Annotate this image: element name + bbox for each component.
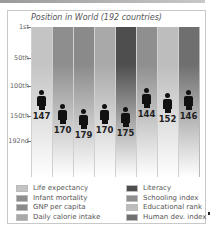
legend-swatch [16, 214, 28, 221]
person-icon [57, 104, 69, 124]
legend-swatch [126, 185, 138, 192]
person-icon [162, 93, 174, 113]
legend-swatch [126, 204, 138, 211]
person-icon [120, 107, 132, 127]
top-bar [0, 0, 205, 3]
legend-label: Life expectancy [33, 184, 88, 193]
rank-value: 179 [73, 130, 95, 140]
person-icon [78, 109, 90, 129]
edge-marker [208, 212, 210, 215]
legend-swatch [16, 185, 28, 192]
rank-value: 147 [31, 111, 53, 121]
legend-label: Schooling index [143, 194, 198, 203]
plot-area [31, 27, 199, 177]
column-gnp-per-capita [73, 27, 95, 177]
rank-value: 152 [157, 114, 179, 124]
legend-label: Infant mortality [33, 194, 87, 203]
legend-label: Human dev. index [143, 213, 206, 222]
rank-value: 146 [178, 111, 200, 121]
column-daily-calorie-intake [94, 27, 116, 177]
legend-swatch [126, 214, 138, 221]
person-icon [141, 88, 153, 108]
legend-label: Educational rank [143, 203, 202, 212]
person-icon [183, 90, 195, 110]
legend-swatch [16, 204, 28, 211]
rank-value: 170 [94, 125, 116, 135]
legend-swatch [16, 195, 28, 202]
rank-value: 175 [115, 128, 137, 138]
column-infant-mortality [52, 27, 74, 177]
legend-label: GNP per capita [33, 203, 86, 212]
column-literacy [115, 27, 137, 177]
person-icon [36, 90, 48, 110]
legend-label: Daily calorie intake [33, 213, 100, 222]
legend-label: Literacy [143, 184, 171, 193]
rank-value: 170 [52, 125, 74, 135]
rank-value: 144 [136, 109, 158, 119]
y-tick-label: 192nd [8, 137, 29, 145]
legend-swatch [126, 195, 138, 202]
chart-title: Position in World (192 countries) [31, 13, 162, 22]
person-icon [99, 104, 111, 124]
